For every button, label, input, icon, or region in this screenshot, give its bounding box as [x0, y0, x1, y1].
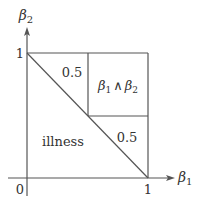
origin-label: 0: [16, 182, 24, 197]
y-axis-label: β2: [18, 7, 33, 25]
axes: [8, 27, 175, 196]
x-axis-label: β1: [177, 169, 192, 187]
belief-function-diagram: β2 β1 1 1 0 0.5 β1∧β2 0.5 illness: [0, 0, 198, 203]
region-label-illness: illness: [42, 134, 84, 149]
y-tick-label: 1: [16, 46, 24, 61]
partition-lines: [27, 53, 148, 178]
region-label-lower-right: 0.5: [117, 130, 138, 145]
region-label-top-right: β1∧β2: [97, 78, 138, 95]
region-label-upper-left: 0.5: [62, 65, 83, 80]
x-tick-label: 1: [144, 182, 152, 197]
